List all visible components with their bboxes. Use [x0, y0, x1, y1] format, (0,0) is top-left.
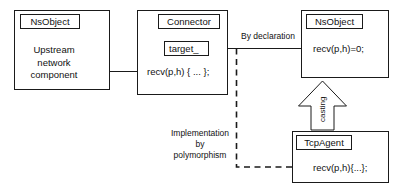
- edge-label-casting: casting: [318, 90, 328, 122]
- class-title-nsobject-abstract: NsObject: [306, 14, 363, 29]
- upstream-body-line-1: Upstream: [14, 44, 94, 57]
- class-title-tcpagent: TcpAgent: [296, 135, 352, 150]
- class-title-upstream-nsobject: NsObject: [20, 14, 80, 29]
- uml-diagram-canvas: NsObject Upstream network component Conn…: [0, 0, 399, 193]
- method-nsobject-recv-pure-virtual: recv(p,h)=0;: [313, 43, 364, 56]
- method-connector-recv: recv(p,h) { ... };: [147, 66, 209, 79]
- upstream-body-line-2: network: [14, 57, 94, 70]
- method-tcpagent-recv: recv(p,h){...};: [313, 162, 367, 175]
- upstream-body-line-3: component: [14, 69, 94, 82]
- edge-label-by-declaration: By declaration: [232, 31, 304, 42]
- edge-label-implementation-line-2: by: [168, 139, 232, 150]
- class-title-connector: Connector: [158, 14, 220, 29]
- edge-label-implementation-line-3: polymorphism: [168, 150, 232, 161]
- attribute-target[interactable]: target_: [164, 41, 209, 56]
- edge-label-implementation-line-1: Implementation: [168, 128, 232, 139]
